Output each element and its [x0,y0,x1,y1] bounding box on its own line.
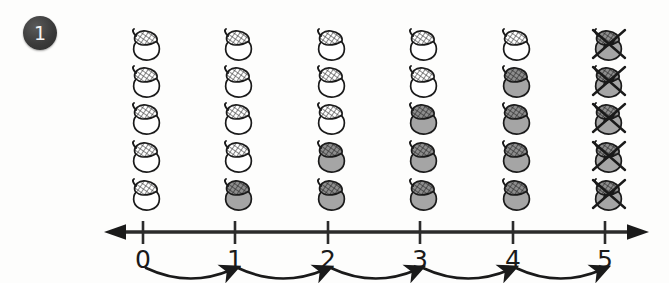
curved-hop-arrow-icon [146,268,231,279]
acorn-icon [497,177,537,213]
acorn-icon [219,64,259,100]
tick-label: 3 [412,245,428,274]
acorn-icon [312,101,352,137]
worksheet-canvas: 1 [0,0,669,283]
acorn-icon [497,101,537,137]
acorn-icon [589,101,629,137]
acorn-icon [404,139,444,175]
acorn-icon [404,177,444,213]
curved-hop-arrow-icon [238,268,324,279]
acorn-icon [589,27,629,63]
arrow-left-icon [104,224,126,240]
acorn-icon [219,177,259,213]
curved-hop-arrow-icon [423,268,509,279]
acorn-icon [127,64,167,100]
acorn-icon [404,64,444,100]
tick-label: 2 [320,245,336,274]
arrow-right-icon [627,224,649,240]
acorn-icon [312,139,352,175]
acorn-icon [127,101,167,137]
acorn-icon [497,139,537,175]
curved-hop-arrow-icon [516,268,601,279]
acorn-icon [497,27,537,63]
acorn-icon [219,27,259,63]
acorn-icon [127,177,167,213]
acorn-grid [0,0,669,220]
curved-hop-arrow-icon [331,268,416,279]
acorn-icon [404,101,444,137]
tick-group [143,221,605,244]
acorn-icon [127,139,167,175]
acorn-icon [219,101,259,137]
acorn-icon [589,177,629,213]
tick-label: 5 [597,245,613,274]
axis-line-group [104,224,649,240]
acorn-icon [404,27,444,63]
acorn-icon [219,139,259,175]
hop-arrow-group [146,268,601,279]
tick-label: 1 [227,245,243,274]
acorn-icon [127,27,167,63]
acorn-icon [497,64,537,100]
acorn-icon [312,64,352,100]
acorn-icon [312,27,352,63]
acorn-icon [312,177,352,213]
tick-label: 4 [505,245,521,274]
acorn-icon [589,64,629,100]
tick-label: 0 [135,245,151,274]
acorn-icon [589,139,629,175]
